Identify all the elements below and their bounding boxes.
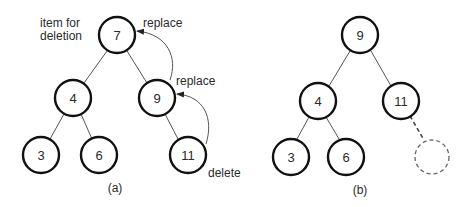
binary-tree-deletion-diagram: 7 4 9 3 6 11 item for deletion replace r… xyxy=(0,0,470,207)
edge-11-removed xyxy=(410,116,424,140)
node-b-left: 4 xyxy=(300,83,336,119)
edge-7-4 xyxy=(84,51,107,83)
annotation-delete: delete xyxy=(208,166,241,180)
annotation-deletion: deletion xyxy=(40,29,82,43)
node-a-root: 7 xyxy=(99,17,135,53)
node-b-root: 9 xyxy=(342,17,378,53)
node-b-right: 11 xyxy=(383,83,419,119)
node-value: 4 xyxy=(314,94,321,109)
edge-4-6 xyxy=(326,117,339,139)
replace-arrow-9-to-7 xyxy=(137,31,173,80)
edge-9-4 xyxy=(329,51,350,86)
node-value: 7 xyxy=(113,28,120,43)
node-b-left-left: 3 xyxy=(273,139,309,175)
node-a-left: 4 xyxy=(55,80,91,116)
caption-a: (a) xyxy=(108,181,123,195)
edge-4-6 xyxy=(81,114,92,139)
edge-4-3 xyxy=(50,114,64,139)
tree-b: 9 4 11 3 6 (b) xyxy=(273,17,449,197)
node-b-removed-placeholder xyxy=(415,140,449,174)
tree-a: 7 4 9 3 6 11 item for deletion replace r… xyxy=(23,16,241,195)
edge-9-11 xyxy=(371,51,391,86)
node-b-left-right: 6 xyxy=(328,139,364,175)
annotation-replace-top: replace xyxy=(143,16,183,30)
node-value: 3 xyxy=(37,148,44,163)
node-a-right-right: 11 xyxy=(170,137,206,173)
annotation-replace-mid: replace xyxy=(176,74,216,88)
edge-4-3 xyxy=(297,117,309,139)
node-a-left-right: 6 xyxy=(81,137,117,173)
edge-9-11 xyxy=(165,114,178,139)
node-value: 11 xyxy=(394,94,408,109)
node-value: 4 xyxy=(69,91,76,106)
node-value: 9 xyxy=(153,91,160,106)
node-a-left-left: 3 xyxy=(23,137,59,173)
node-value: 6 xyxy=(95,148,102,163)
node-value: 6 xyxy=(342,150,349,165)
node-value: 3 xyxy=(287,150,294,165)
node-value: 11 xyxy=(181,148,195,163)
caption-b: (b) xyxy=(353,183,368,197)
annotation-item-for: item for xyxy=(40,16,80,30)
edge-7-9 xyxy=(127,51,147,83)
node-value: 9 xyxy=(356,28,363,43)
node-a-right: 9 xyxy=(139,80,175,116)
